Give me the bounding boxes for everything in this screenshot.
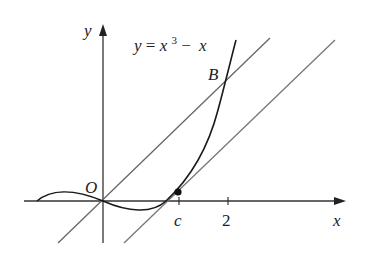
- x-axis: [24, 197, 346, 205]
- secant-line: [58, 38, 270, 243]
- x-axis-label: x: [332, 211, 341, 230]
- y-axis-arrow-icon: [99, 24, 107, 36]
- cubic-curve: [37, 40, 236, 210]
- x-axis-arrow-icon: [334, 197, 346, 205]
- tick-2-label: 2: [222, 211, 231, 230]
- tangent-point: [174, 188, 181, 195]
- origin-label: O: [85, 178, 97, 197]
- mean-value-theorem-diagram: y x O B c 2 y = x 3 − x: [0, 0, 374, 254]
- y-axis-label: y: [82, 21, 92, 40]
- tick-c-label: c: [174, 211, 182, 230]
- curve-equation-label: y = x 3 − x: [132, 29, 207, 55]
- point-b-label: B: [208, 65, 219, 84]
- y-axis: [99, 24, 107, 243]
